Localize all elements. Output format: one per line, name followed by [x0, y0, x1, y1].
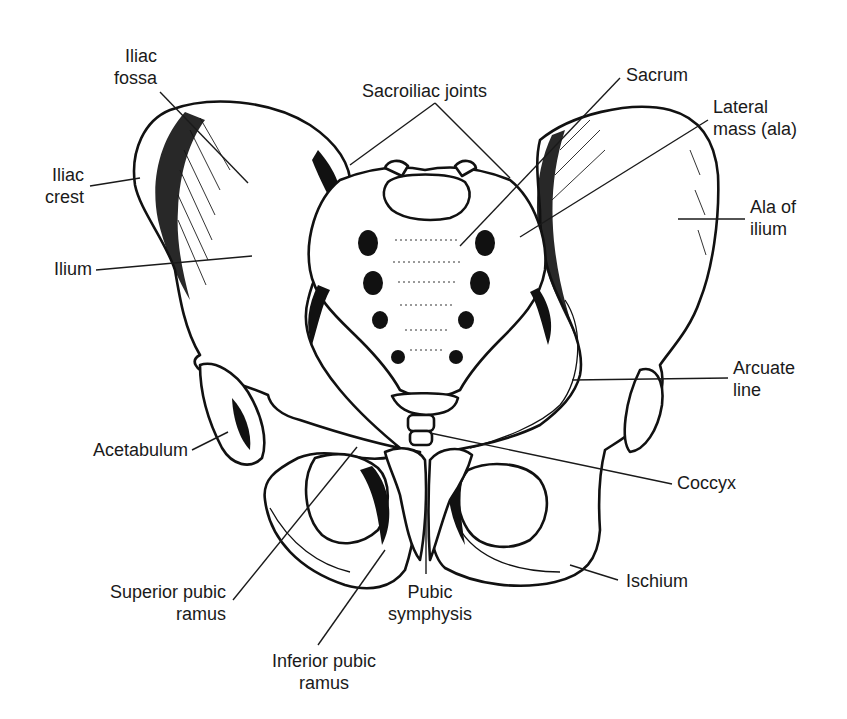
label-acetabulum: Acetabulum: [78, 439, 188, 461]
pelvis-anatomy-diagram: Iliac fossa Sacroiliac joints Sacrum Lat…: [0, 0, 847, 719]
label-sacroiliac-joints: Sacroiliac joints: [362, 80, 487, 102]
label-iliac-crest: Iliac crest: [36, 164, 84, 208]
label-lateral-mass-ala: Lateral mass (ala): [713, 96, 797, 140]
label-ischium: Ischium: [626, 570, 688, 592]
label-superior-pubic-ramus: Superior pubic ramus: [92, 581, 226, 625]
label-pubic-symphysis: Pubic symphysis: [380, 581, 480, 625]
label-coccyx: Coccyx: [677, 472, 736, 494]
label-ilium: Ilium: [46, 258, 92, 280]
label-sacrum: Sacrum: [626, 64, 688, 86]
label-inferior-pubic-ramus: Inferior pubic ramus: [258, 650, 390, 694]
sacrum: [308, 161, 551, 398]
label-ala-of-ilium: Ala of ilium: [750, 196, 796, 240]
label-arcuate-line: Arcuate line: [733, 357, 795, 401]
label-iliac-fossa: Iliac fossa: [105, 45, 157, 89]
